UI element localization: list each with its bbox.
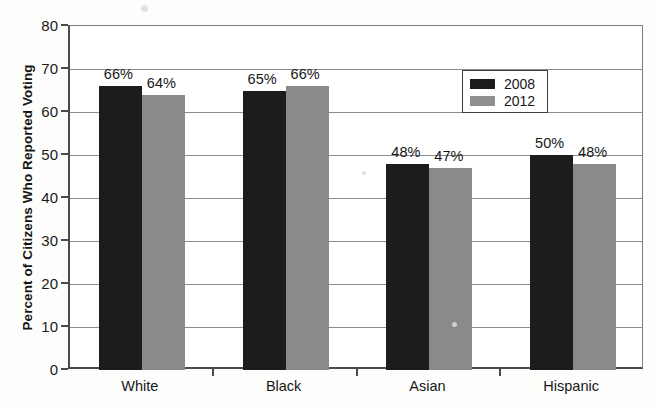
x-axis-tick-mark [356, 369, 358, 376]
y-axis-tick-label: 40 [12, 189, 58, 206]
bar-value-label: 64% [147, 75, 176, 91]
bar-value-label: 47% [434, 148, 463, 164]
y-axis-tick-mark [61, 196, 68, 198]
bar-chart: Percent of Citizens Who Reported Voting … [0, 0, 655, 408]
y-axis-tick-label: 60 [12, 103, 58, 120]
bar-value-label: 66% [291, 66, 320, 82]
legend-label-2008: 2008 [504, 77, 535, 91]
scan-artifact [141, 5, 148, 12]
bar-asian-2012 [429, 168, 472, 370]
y-axis-tick-label: 70 [12, 60, 58, 77]
x-axis-category-label-hispanic: Hispanic [543, 378, 599, 394]
legend-swatch-2008-icon [470, 79, 495, 89]
y-axis-tick-label: 10 [12, 318, 58, 335]
x-axis-category-label-black: Black [266, 378, 301, 394]
legend-item-2008: 2008 [470, 75, 547, 92]
legend-label-2012: 2012 [504, 94, 535, 108]
x-axis-tick-mark [499, 369, 501, 376]
x-axis-category-label-white: White [121, 378, 158, 394]
bar-value-label: 65% [248, 71, 277, 87]
bar-value-label: 48% [391, 144, 420, 160]
bar-white-2008 [99, 86, 142, 370]
x-axis-category-label-asian: Asian [409, 378, 445, 394]
y-axis-tick-mark [61, 110, 68, 112]
y-axis-tick-mark [61, 67, 68, 69]
bar-value-label: 66% [104, 66, 133, 82]
y-axis-tick-label: 50 [12, 146, 58, 163]
bar-value-label: 48% [578, 144, 607, 160]
bar-hispanic-2008 [530, 155, 573, 370]
bar-white-2012 [142, 95, 185, 370]
bar-value-label: 50% [535, 135, 564, 151]
legend: 2008 2012 [462, 70, 548, 113]
y-axis-tick-mark [61, 282, 68, 284]
bar-black-2012 [286, 86, 329, 370]
y-axis-tick-mark [61, 153, 68, 155]
y-axis-tick-label: 20 [12, 275, 58, 292]
y-axis-tick-label: 80 [12, 17, 58, 34]
bar-asian-2008 [386, 164, 429, 370]
y-axis-tick-mark [61, 368, 68, 370]
bar-hispanic-2012 [573, 164, 616, 370]
gridline [70, 69, 642, 70]
y-axis-tick-label: 30 [12, 232, 58, 249]
bar-black-2008 [243, 91, 286, 371]
y-axis-tick-label: 0 [12, 361, 58, 378]
x-axis-tick-mark [212, 369, 214, 376]
y-axis-tick-mark [61, 24, 68, 26]
y-axis-tick-mark [61, 325, 68, 327]
y-axis-tick-mark [61, 239, 68, 241]
legend-item-2012: 2012 [470, 92, 547, 109]
legend-swatch-2012-icon [470, 96, 495, 106]
